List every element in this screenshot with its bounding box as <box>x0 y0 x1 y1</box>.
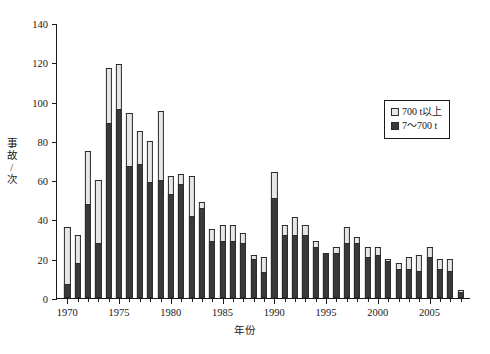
y-axis-title-char: 次 <box>4 174 20 186</box>
chart-legend: 700 t以上 7～700 t <box>384 100 450 139</box>
bar-segment-7-to-700t <box>178 184 184 298</box>
bar-segment-700t-and-above <box>261 257 267 273</box>
bar-segment-700t-and-above <box>85 151 91 204</box>
bar-segment-7-to-700t <box>106 123 112 298</box>
x-axis-tick-label: 1980 <box>160 307 181 318</box>
bar-segment-700t-and-above <box>302 225 308 235</box>
y-axis-tick: 0 <box>52 299 57 300</box>
bar-segment-700t-and-above <box>220 225 226 241</box>
x-axis-major-tick <box>67 298 68 304</box>
bar-segment-7-to-700t <box>251 259 257 298</box>
bar-segment-7-to-700t <box>126 166 132 298</box>
x-axis-minor-tick <box>450 298 451 302</box>
bar-group <box>199 202 205 298</box>
bar-segment-700t-and-above <box>188 176 194 215</box>
x-axis-minor-tick <box>461 298 462 302</box>
x-axis-minor-tick <box>129 298 130 302</box>
bar-segment-7-to-700t <box>147 182 153 298</box>
bar-group <box>230 225 236 298</box>
legend-label-lower: 7～700 t <box>402 120 437 132</box>
x-axis-minor-tick <box>202 298 203 302</box>
x-axis-major-tick <box>326 298 327 304</box>
bar-segment-7-to-700t <box>427 257 433 298</box>
bar-segment-7-to-700t <box>85 204 91 298</box>
bar-segment-7-to-700t <box>375 255 381 298</box>
bar-group <box>292 217 298 298</box>
x-axis-minor-tick <box>212 298 213 302</box>
bar-segment-700t-and-above <box>406 257 412 269</box>
x-axis-minor-tick <box>347 298 348 302</box>
x-axis-minor-tick <box>316 298 317 302</box>
bar-group <box>261 257 267 298</box>
x-axis-minor-tick <box>192 298 193 302</box>
bar-segment-700t-and-above <box>168 176 174 194</box>
bar-segment-7-to-700t <box>354 243 360 298</box>
bar-segment-7-to-700t <box>385 261 391 298</box>
bar-segment-7-to-700t <box>230 241 236 298</box>
y-axis-tick-label: 20 <box>38 253 49 269</box>
bar-segment-7-to-700t <box>437 269 443 298</box>
bar-segment-700t-and-above <box>447 259 453 271</box>
x-axis-minor-tick <box>357 298 358 302</box>
bar-segment-7-to-700t <box>95 243 101 298</box>
bar-segment-700t-and-above <box>178 174 184 184</box>
bar-segment-7-to-700t <box>137 164 143 298</box>
x-axis-minor-tick <box>181 298 182 302</box>
bar-segment-700t-and-above <box>209 229 215 241</box>
bar-segment-700t-and-above <box>344 227 350 243</box>
y-axis-tick-label: 80 <box>38 135 49 151</box>
bar-segment-700t-and-above <box>126 113 132 166</box>
bar-group <box>126 113 132 298</box>
legend-label-upper: 700 t以上 <box>402 106 442 118</box>
bar-segment-7-to-700t <box>313 247 319 298</box>
bar-segment-7-to-700t <box>406 269 412 298</box>
x-axis-minor-tick <box>305 298 306 302</box>
plot-area: 020406080100120140 197019751980198519901… <box>56 24 470 299</box>
x-axis-minor-tick <box>233 298 234 302</box>
bar-segment-700t-and-above <box>375 247 381 255</box>
bar-segment-7-to-700t <box>75 263 81 298</box>
x-axis-minor-tick <box>254 298 255 302</box>
bar-segment-7-to-700t <box>168 194 174 298</box>
bar-group <box>354 237 360 298</box>
bar-group <box>302 225 308 298</box>
x-axis-minor-tick <box>161 298 162 302</box>
bar-group <box>271 172 277 298</box>
bar-segment-7-to-700t <box>333 253 339 298</box>
bar-group <box>313 241 319 298</box>
bar-segment-7-to-700t <box>157 180 163 298</box>
bar-segment-7-to-700t <box>292 235 298 298</box>
bar-group <box>437 259 443 298</box>
y-axis-tick-label: 120 <box>32 56 48 72</box>
bar-group <box>406 257 412 298</box>
bar-group <box>251 255 257 298</box>
x-axis-minor-tick <box>409 298 410 302</box>
bar-segment-700t-and-above <box>240 233 246 243</box>
bar-segment-7-to-700t <box>240 243 246 298</box>
bar-group <box>85 151 91 298</box>
x-axis-minor-tick <box>140 298 141 302</box>
bar-segment-700t-and-above <box>271 172 277 198</box>
bar-group <box>106 68 112 298</box>
bar-group <box>375 247 381 298</box>
bar-group <box>147 141 153 298</box>
bar-group <box>188 176 194 298</box>
x-axis-major-tick <box>223 298 224 304</box>
x-axis-minor-tick <box>78 298 79 302</box>
x-axis-tick-label: 2005 <box>419 307 440 318</box>
y-axis-tick-label: 100 <box>32 96 48 112</box>
x-axis-major-tick <box>171 298 172 304</box>
bar-segment-700t-and-above <box>137 131 143 164</box>
bar-group <box>364 247 370 298</box>
x-axis-minor-tick <box>388 298 389 302</box>
y-axis-tick-label: 40 <box>38 213 49 229</box>
bar-group <box>64 227 70 298</box>
bar-segment-7-to-700t <box>209 241 215 298</box>
x-axis-minor-tick <box>368 298 369 302</box>
x-axis-minor-tick <box>285 298 286 302</box>
y-axis-title: 事故/次 <box>4 138 20 186</box>
bar-segment-700t-and-above <box>157 111 163 180</box>
bar-segment-700t-and-above <box>427 247 433 257</box>
bar-segment-700t-and-above <box>75 235 81 263</box>
bar-group <box>168 176 174 298</box>
